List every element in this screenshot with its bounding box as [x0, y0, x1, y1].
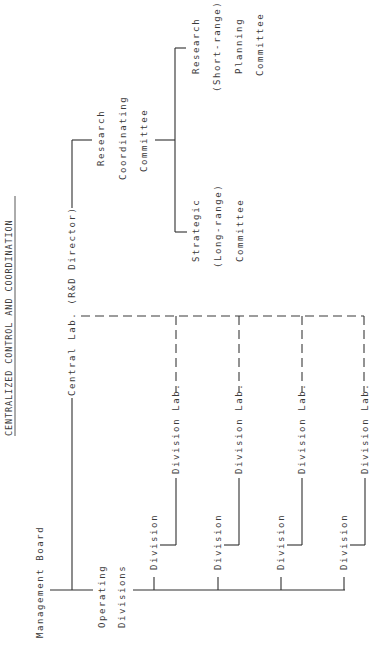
node-strategic-line1: Strategic [191, 199, 201, 262]
division-lab-label: Division Lab. [171, 383, 181, 474]
node-management-board: Management Board [35, 526, 45, 638]
org-chart: CENTRALIZED CONTROL AND COORDINATION Man… [0, 0, 385, 670]
node-operating-divisions-line1: Operating [97, 565, 107, 628]
division-lab-label: Division Lab. [360, 383, 370, 474]
division-branch-3: Division Division Lab. [276, 383, 307, 590]
division-lab-label: Division Lab. [234, 383, 244, 474]
title-text: CENTRALIZED CONTROL AND COORDINATION [4, 219, 14, 436]
node-operating-divisions-line2: Divisions [117, 565, 127, 628]
chart-title: CENTRALIZED CONTROL AND COORDINATION [4, 196, 15, 436]
division-branch-4: Division Division Lab. [339, 383, 370, 590]
node-planning-line4: Committee [255, 13, 265, 76]
division-label: Division [213, 514, 223, 570]
node-planning-line2: (Short-range) [212, 1, 222, 92]
node-strategic-line3: Committee [235, 199, 245, 262]
division-label: Division [149, 514, 159, 570]
node-central-lab: Central Lab. (R&D Director) [67, 207, 77, 397]
division-label: Division [276, 514, 286, 570]
division-branch-2: Division Division Lab. [213, 383, 244, 590]
node-rcc-line1: Research [96, 110, 106, 166]
node-rcc-line3: Committee [139, 109, 149, 172]
node-planning-line1: Research [191, 18, 201, 74]
node-rcc-line2: Coordinating [118, 96, 128, 180]
node-strategic-line2: (Long-range) [213, 184, 223, 268]
division-branch-1: Division Division Lab. [149, 383, 181, 590]
division-label: Division [339, 514, 349, 570]
division-lab-label: Division Lab. [297, 383, 307, 474]
node-planning-line3: Planning [234, 18, 244, 74]
